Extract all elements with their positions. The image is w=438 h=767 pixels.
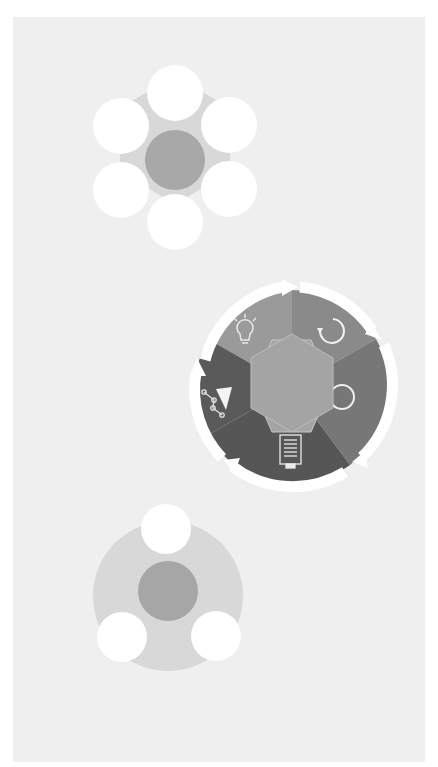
- figure-caption: [25, 743, 31, 756]
- results-gear: [93, 504, 243, 671]
- node-people: [201, 97, 257, 153]
- node-organization: [93, 162, 149, 218]
- center-investments: [145, 130, 205, 190]
- node-impact: [141, 504, 191, 554]
- node-time: [93, 98, 149, 154]
- node-outputs: [97, 612, 147, 662]
- node-outcomes: [191, 611, 241, 661]
- node-information: [147, 194, 203, 250]
- investments-gear: [93, 65, 257, 250]
- gears-diagram: [0, 0, 438, 767]
- node-infrastructure: [147, 65, 203, 121]
- node-technology: [201, 161, 257, 217]
- framework-gear: [0, 0, 392, 492]
- center-results: [138, 561, 198, 621]
